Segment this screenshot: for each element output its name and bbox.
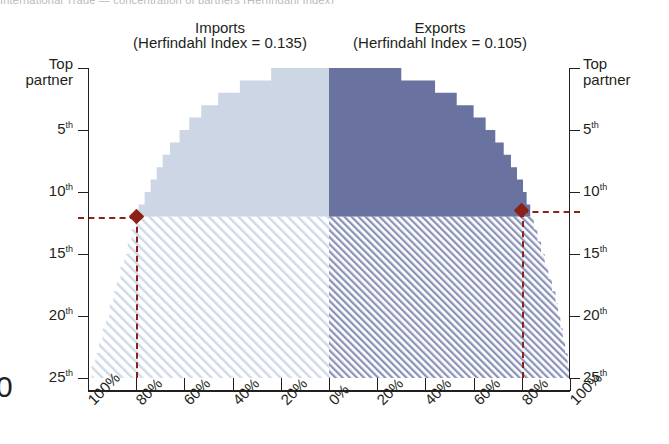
exports-solid-region	[329, 68, 530, 217]
ordinal-suffix: th	[600, 182, 608, 192]
y-label-line2: partner	[25, 71, 73, 88]
x-tick-label-10: 100%	[566, 369, 605, 408]
exports-herfindahl-label: (Herfindahl Index = 0.105)	[330, 35, 550, 50]
y-tick-label-l-25: 25th	[49, 369, 73, 384]
exports-threshold-drop	[522, 211, 524, 378]
exports-threshold-guide	[522, 211, 580, 213]
y-tick-r-15	[570, 254, 580, 255]
ordinal-suffix: th	[600, 306, 608, 316]
ordinal-suffix: th	[65, 368, 73, 378]
ordinal-suffix: th	[65, 120, 73, 130]
y-tick-label-l-20: 20th	[49, 307, 73, 322]
y-axis-right	[569, 68, 570, 379]
ordinal-suffix: th	[591, 120, 599, 130]
plot-svg	[88, 68, 570, 378]
x-tick-10	[570, 378, 571, 391]
y-tick-label-r-10: 10th	[583, 183, 607, 198]
y-tick-label-l-15: 15th	[49, 245, 73, 260]
ordinal-suffix: th	[600, 244, 608, 254]
y-label-line1: Top	[49, 55, 73, 72]
y-tick-r-20	[570, 316, 580, 317]
y-tick-label-l-1: Toppartner	[25, 56, 73, 88]
y-tick-label-r-15: 15th	[583, 245, 607, 260]
imports-threshold-guide	[78, 217, 136, 219]
y-tick-l-25	[78, 378, 88, 379]
panel-title-exports: Exports (Herfindahl Index = 0.105)	[330, 20, 550, 50]
imports-threshold-drop	[136, 217, 138, 378]
y-tick-r-10	[570, 192, 580, 193]
y-axis-left	[88, 68, 89, 379]
x-tick-3	[233, 378, 234, 391]
x-tick-5	[329, 378, 330, 391]
x-tick-8	[474, 378, 475, 391]
y-tick-label-r-20: 20th	[583, 307, 607, 322]
y-tick-label-l-10: 10th	[49, 183, 73, 198]
exports-title-label: Exports	[330, 20, 550, 35]
y-tick-label-l-5: 5th	[57, 121, 73, 136]
y-tick-r-1	[570, 68, 580, 69]
ordinal-suffix: th	[65, 306, 73, 316]
y-tick-label-r-5: 5th	[583, 121, 599, 136]
imports-hatched-region	[92, 217, 329, 378]
x-tick-9	[522, 378, 523, 391]
y-tick-l-1	[78, 68, 88, 69]
panel-title-imports: Imports (Herfindahl Index = 0.135)	[110, 20, 330, 50]
y-label-line2: partner	[583, 71, 631, 88]
imports-herfindahl-label: (Herfindahl Index = 0.135)	[110, 35, 330, 50]
cut-off-header-text: International Trade — concentration of p…	[0, 0, 669, 4]
imports-solid-region	[139, 68, 329, 217]
y-tick-l-20	[78, 316, 88, 317]
ordinal-suffix: th	[65, 244, 73, 254]
y-label-line1: Top	[583, 55, 607, 72]
y-tick-r-5	[570, 130, 580, 131]
exports-hatched-region	[329, 217, 570, 378]
plot-area	[88, 68, 570, 378]
x-tick-0	[88, 378, 89, 391]
x-tick-4	[281, 378, 282, 391]
y-tick-label-r-1: Toppartner	[583, 56, 631, 88]
imports-title-label: Imports	[110, 20, 330, 35]
y-tick-l-10	[78, 192, 88, 193]
chart-figure: International Trade — concentration of p…	[0, 0, 669, 444]
cut-off-left-edge-glyph: 0	[0, 372, 13, 402]
y-tick-l-5	[78, 130, 88, 131]
ordinal-suffix: th	[65, 182, 73, 192]
y-tick-l-15	[78, 254, 88, 255]
y-tick-r-25	[570, 378, 580, 379]
